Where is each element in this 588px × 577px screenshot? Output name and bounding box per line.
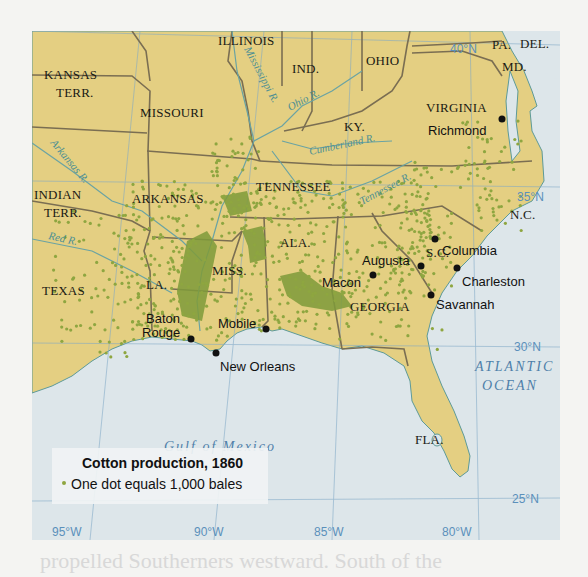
city-label-new-orleans: New Orleans <box>220 359 296 374</box>
map-legend: Cotton production, 1860 One dot equals 1… <box>52 448 268 504</box>
state-label-indian: INDIAN <box>34 187 82 202</box>
page-text-below: propelled Southerners westward. South of… <box>40 548 442 574</box>
state-label-tennessee: TENNESSEE <box>256 179 331 194</box>
city-label-augusta: Augusta <box>362 253 410 268</box>
state-label-kansas: KANSAS <box>44 67 97 82</box>
lon-label-85w: 85°W <box>314 525 344 539</box>
city-marker-richmond <box>499 116 506 123</box>
state-label-virginia: VIRGINIA <box>426 100 487 115</box>
state-label-kansas-terr: TERR. <box>56 85 93 100</box>
city-label-macon: Macon <box>322 275 361 290</box>
state-label-ohio: OHIO <box>366 53 399 68</box>
state-label-delaware: DEL. <box>520 36 549 51</box>
state-label-louisiana: LA. <box>146 277 167 292</box>
legend-row: One dot equals 1,000 bales <box>62 476 242 492</box>
city-label-charleston: Charleston <box>462 274 525 289</box>
city-marker-macon <box>370 272 377 279</box>
state-label-north-carolina: N.C. <box>510 207 535 222</box>
city-label-rouge: Rouge <box>142 325 180 340</box>
state-label-georgia: GEORGIA <box>350 299 410 314</box>
state-label-texas: TEXAS <box>42 283 85 298</box>
cotton-dot-icon <box>62 481 66 485</box>
legend-dot-label: One dot equals 1,000 bales <box>71 476 242 492</box>
city-label-savannah: Savannah <box>436 297 495 312</box>
water-label-atlantic: ATLANTIC <box>474 359 554 374</box>
state-label-indian-terr: TERR. <box>44 205 81 220</box>
lat-label-40n: 40°N <box>450 42 477 56</box>
state-label-maryland: MD. <box>502 59 527 74</box>
legend-title: Cotton production, 1860 <box>82 455 243 471</box>
city-label-baton: Baton <box>146 311 180 326</box>
state-label-mississippi: MISS. <box>212 263 247 278</box>
state-label-arkansas: ARKANSAS <box>132 191 204 206</box>
city-marker-baton-rouge <box>188 336 195 343</box>
city-marker-mobile <box>263 326 270 333</box>
city-label-mobile: Mobile <box>218 316 256 331</box>
city-marker-charleston <box>454 265 461 272</box>
state-label-pennsylvania: PA. <box>492 37 511 52</box>
city-label-columbia: Columbia <box>442 243 498 258</box>
city-marker-augusta <box>418 263 425 270</box>
lat-label-35n: 35°N <box>517 190 544 204</box>
city-label-richmond: Richmond <box>428 123 487 138</box>
water-label-ocean: OCEAN <box>482 378 538 393</box>
state-label-indiana: IND. <box>292 61 319 76</box>
cotton-map: KANSAS TERR. MISSOURI ILLINOIS IND. OHIO… <box>32 31 560 540</box>
lon-label-90w: 90°W <box>194 525 224 539</box>
lon-label-95w: 95°W <box>52 525 82 539</box>
lat-label-30n: 30°N <box>514 340 541 354</box>
state-label-alabama: ALA. <box>280 235 311 250</box>
city-marker-new-orleans <box>213 350 220 357</box>
city-marker-columbia <box>432 236 439 243</box>
lon-label-80w: 80°W <box>442 525 472 539</box>
state-label-florida: FLA. <box>415 432 444 447</box>
city-marker-savannah <box>428 292 435 299</box>
state-label-illinois: ILLINOIS <box>218 33 274 48</box>
state-label-kentucky: KY. <box>344 119 365 134</box>
state-label-missouri: MISSOURI <box>140 105 204 120</box>
lat-label-25n: 25°N <box>512 492 539 506</box>
